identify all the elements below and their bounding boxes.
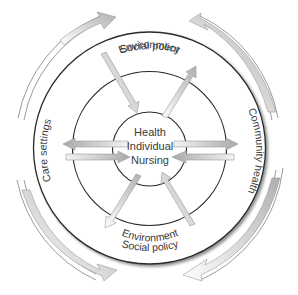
center-label-health: Health (134, 126, 166, 138)
center-label-individual: Individual (127, 140, 173, 152)
center-label-nursing: Nursing (131, 154, 169, 166)
health-nursing-diagram: Social policy Social policy Care setting… (0, 0, 298, 295)
